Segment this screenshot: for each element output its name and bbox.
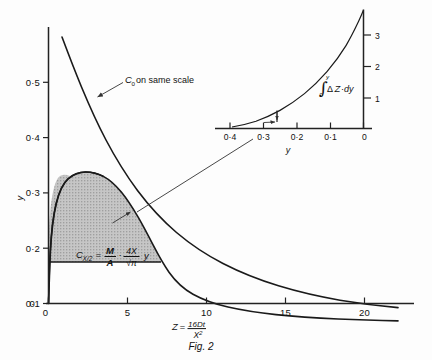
main-x-ticks xyxy=(49,298,365,304)
inset-ytick-label-3: 3 xyxy=(375,31,380,41)
c0-annotation-text: on same scale xyxy=(136,75,194,85)
main-xtick-label-10: 10 xyxy=(201,307,212,318)
x-title-numerator: 16Dt xyxy=(188,320,206,329)
main-ytick-label-5: 0·5 xyxy=(26,77,40,88)
inset-curve xyxy=(232,10,364,127)
integral-dy: dy xyxy=(344,84,354,94)
figure-caption: Fig. 2 xyxy=(188,341,213,352)
inset-integral-label: ∫ 0 y Δ Z · dy xyxy=(319,73,354,98)
inset-xtick-label-02: 0·2 xyxy=(291,132,304,142)
inset-ytick-label-1: 1 xyxy=(375,94,380,104)
c0-leader-line xyxy=(98,83,124,98)
inset-xtick-label-04: 0·4 xyxy=(224,132,237,142)
figure-container: 0 0·1 0·2 0·3 0·4 0·5 y 0 5 10 15 20 xyxy=(0,0,432,360)
c0-annotation: C 0 on same scale xyxy=(125,74,194,87)
main-xtick-label-15: 15 xyxy=(280,307,291,318)
main-ytick-label-3: 0·3 xyxy=(26,187,40,198)
main-xtick-label-20: 20 xyxy=(359,307,370,318)
main-ytick-label-2: 0·2 xyxy=(26,243,40,254)
inset-xtick-label-01: 0·1 xyxy=(324,132,337,142)
inset-y-ticks xyxy=(364,35,372,98)
main-ytick-label-4: 0·4 xyxy=(26,132,40,143)
integral-upper-limit: y xyxy=(325,73,330,80)
cx2-dot: · xyxy=(119,249,122,260)
x-title-var: Z xyxy=(171,321,179,332)
x-title-equals: = xyxy=(180,321,186,332)
inset-ytick-label-2: 2 xyxy=(375,62,380,72)
main-y-axis-title: y xyxy=(14,194,25,201)
inset-marker xyxy=(264,111,277,123)
cx2-lhs-subscript: X/2 xyxy=(82,255,93,262)
main-plot: 0 0·1 0·2 0·3 0·4 0·5 y 0 5 10 15 20 xyxy=(14,27,415,340)
figure-svg: 0 0·1 0·2 0·3 0·4 0·5 y 0 5 10 15 20 xyxy=(0,0,432,360)
cx2-frac2-numerator: 4X xyxy=(126,246,137,256)
x-title-denominator-exponent: 2 xyxy=(198,329,203,336)
c0-subscript: 0 xyxy=(132,80,136,87)
inset-pointer-line xyxy=(137,139,253,212)
cx2-frac1-numerator: M xyxy=(106,245,115,256)
integral-lower-limit: 0 xyxy=(320,92,323,98)
inset-xtick-label-03: 0·3 xyxy=(257,132,270,142)
cx2-frac2-denominator: √π xyxy=(126,258,137,268)
inset-xtick-label-0: 0 xyxy=(362,132,367,142)
main-xtick-label-0: 0 xyxy=(43,307,48,318)
main-y-ticks xyxy=(43,82,49,303)
inset-x-axis-title: y xyxy=(285,145,291,155)
cx2-frac1-denominator: A xyxy=(106,257,114,268)
main-x-axis-title: Z = 16Dt X 2 xyxy=(171,320,206,340)
main-ytick-label-1: 0·1 xyxy=(26,298,40,309)
integral-delta: Δ xyxy=(327,84,333,94)
inset-plot: 0·4 0·3 0·2 0·1 0 y 3 2 1 ∫ 0 y Δ xyxy=(215,10,380,155)
main-xtick-label-5: 5 xyxy=(125,307,130,318)
shaded-region-main xyxy=(49,172,161,303)
cx2-equals: = xyxy=(96,249,102,260)
